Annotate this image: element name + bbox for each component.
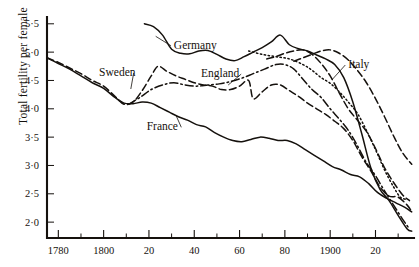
x-tick-label: 1780 [48,245,69,256]
series-label-england: England [201,67,240,80]
series-line-italy [249,51,408,199]
y-axis-ticks: 2·02·53·03·54·04·55·05·5 [25,18,54,227]
series-label-sweden: Sweden [99,66,136,78]
series-label-germany: Germany [174,39,217,52]
series-label-group: GermanySwedenEnglandItalyFrance [99,36,370,132]
x-tick-label: 40 [189,245,200,256]
y-tick-label: 5·5 [25,18,39,29]
x-tick-label: 20 [144,245,155,256]
chart-axes [47,17,414,238]
series-label-italy: Italy [348,58,369,71]
series-line-england [129,64,410,229]
x-tick-label: 1800 [93,245,114,256]
x-tick-label: 1900 [320,245,341,256]
series-line-france [47,58,412,212]
x-tick-label: 20 [370,245,381,256]
series-leader-line [156,36,171,45]
series-line-sweden [47,58,412,212]
y-tick-label: 3·0 [25,160,39,171]
fertility-line-chart: Total fertility per female 2·02·53·03·54… [0,0,419,267]
y-tick-label: 3·5 [25,132,39,143]
chart-series-group [47,24,412,231]
series-line-germany [144,24,411,231]
series-label-france: France [147,120,178,132]
y-tick-label: 4·5 [25,75,39,86]
y-tick-label: 2·5 [25,188,39,199]
y-tick-label: 2·0 [25,217,39,228]
y-tick-label: 4·0 [25,103,39,114]
x-axis-ticks: 1780180020406080190020 [48,230,398,256]
x-tick-label: 60 [234,245,245,256]
chart-plot-area: 2·02·53·03·54·04·55·05·5 178018002040608… [0,0,419,267]
x-tick-label: 80 [280,245,291,256]
y-tick-label: 5·0 [25,47,39,58]
